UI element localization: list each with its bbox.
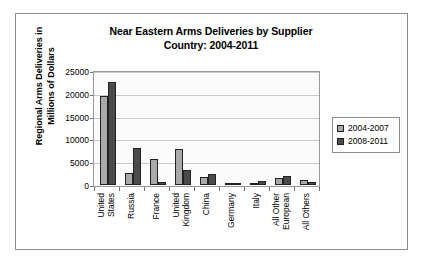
x-category-label: All Others: [302, 193, 312, 253]
x-category-label-line: All Others: [302, 193, 312, 253]
bar: [250, 183, 258, 185]
bar: [133, 148, 141, 185]
legend-swatch-icon: [337, 138, 344, 145]
y-axis-title: Regional Arms Deliveries in Millions of …: [34, 21, 64, 151]
y-axis-title-line-2: Millions of Dollars: [46, 21, 58, 151]
bar: [308, 182, 316, 185]
legend-swatch-icon: [337, 125, 344, 132]
x-category-label-line: Italy: [252, 193, 262, 253]
bars-layer: [95, 73, 318, 185]
y-tick-label: 20000: [43, 91, 89, 100]
x-tick-mark: [244, 187, 245, 191]
x-category-label-line: China: [202, 193, 212, 253]
y-axis-title-line-1: Regional Arms Deliveries in: [34, 21, 46, 151]
x-category-label-line: Kingdom: [182, 193, 192, 253]
bar-group: [95, 73, 120, 185]
bar: [200, 177, 208, 185]
x-category-label-line: Russia: [127, 193, 137, 253]
x-category-label: Italy: [252, 193, 262, 253]
x-category-label: Russia: [127, 193, 137, 253]
chart-title-line-1: Near Eastern Arms Deliveries by Supplier: [56, 25, 366, 39]
bar: [175, 149, 183, 185]
bar: [275, 178, 283, 185]
bar: [125, 173, 133, 185]
x-tick-mark: [294, 187, 295, 191]
bar-group: [170, 73, 195, 185]
bar: [183, 170, 191, 185]
x-category-label: UnitedStates: [97, 193, 116, 253]
x-tick-mark: [219, 187, 220, 191]
bar-group: [220, 73, 245, 185]
x-tick-mark: [269, 187, 270, 191]
y-tick-label: 5000: [43, 159, 89, 168]
legend-label: 2008-2011: [348, 137, 388, 146]
x-category-label: All OtherEuropean: [272, 193, 291, 253]
chart-frame: Near Eastern Arms Deliveries by Supplier…: [15, 13, 408, 250]
x-tick-mark: [144, 187, 145, 191]
x-category-label-line: European: [282, 193, 292, 253]
bar-group: [120, 73, 145, 185]
y-tick-label: 15000: [43, 114, 89, 123]
chart-title: Near Eastern Arms Deliveries by Supplier…: [56, 25, 366, 52]
x-tick-mark: [194, 187, 195, 191]
legend-label: 2004-2007: [348, 124, 389, 133]
bar: [100, 96, 108, 185]
bar: [233, 183, 241, 185]
bar: [258, 181, 266, 185]
x-category-label-line: Germany: [227, 193, 237, 253]
x-tick-mark: [119, 187, 120, 191]
x-category-label: Germany: [227, 193, 237, 253]
y-tick-label: 0: [43, 182, 89, 191]
bar-group: [295, 73, 320, 185]
x-category-label-line: France: [152, 193, 162, 253]
x-category-label: China: [202, 193, 212, 253]
bar: [225, 183, 233, 185]
plot-wrapper: 0500010000150002000025000 UnitedStatesRu…: [93, 71, 320, 201]
x-tick-mark: [169, 187, 170, 191]
x-tick-mark: [94, 187, 95, 191]
bar-group: [245, 73, 270, 185]
legend-item[interactable]: 2008-2011: [337, 135, 395, 148]
bar: [283, 176, 291, 185]
bar: [108, 82, 116, 185]
chart-legend: 2004-20072008-2011: [332, 117, 400, 153]
bar: [158, 182, 166, 185]
x-category-label: UnitedKingdom: [172, 193, 191, 253]
y-tick-label: 25000: [43, 68, 89, 77]
bar: [150, 159, 158, 185]
x-category-label: France: [152, 193, 162, 253]
bar-group: [270, 73, 295, 185]
plot-area: [93, 71, 320, 187]
x-tick-mark: [319, 187, 320, 191]
bar-group: [195, 73, 220, 185]
y-tick-label: 10000: [43, 136, 89, 145]
bar-group: [145, 73, 170, 185]
legend-item[interactable]: 2004-2007: [337, 122, 395, 135]
bar: [208, 174, 216, 185]
chart-title-line-2: Country: 2004-2011: [56, 39, 366, 53]
x-category-label-line: States: [107, 193, 117, 253]
bar: [300, 180, 308, 185]
